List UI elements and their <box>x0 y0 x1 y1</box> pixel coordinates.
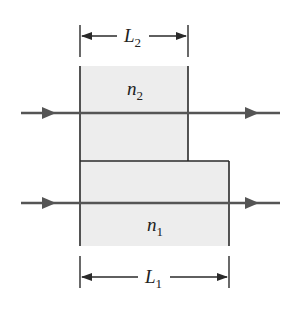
arrow-right-icon <box>176 32 187 40</box>
bottom-dimension-label: L <box>144 266 156 287</box>
arrow-right-icon <box>42 107 56 119</box>
top-dimension-subscript: 2 <box>135 35 142 50</box>
arrow-right-icon <box>42 197 56 209</box>
arrow-left-icon <box>81 273 92 281</box>
svg-text:L1: L1 <box>144 266 162 291</box>
arrow-left-icon <box>81 32 92 40</box>
arrow-right-icon <box>245 197 259 209</box>
two-media-optical-path-diagram: L2 n2 n1 L1 <box>0 0 304 313</box>
bottom-dimension-subscript: 1 <box>156 276 163 291</box>
lower-medium-label: n <box>147 214 157 235</box>
upper-medium-subscript: 2 <box>137 88 144 103</box>
upper-medium-label: n <box>127 78 137 99</box>
svg-text:L2: L2 <box>123 25 141 50</box>
lower-medium-subscript: 1 <box>157 224 164 239</box>
top-dimension-label: L <box>123 25 135 46</box>
arrow-right-icon <box>245 107 259 119</box>
arrow-right-icon <box>217 273 228 281</box>
